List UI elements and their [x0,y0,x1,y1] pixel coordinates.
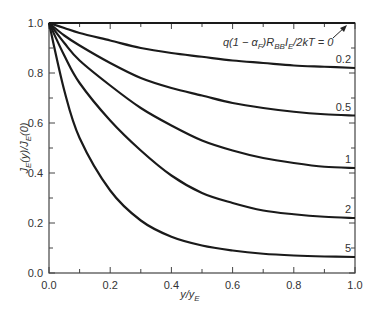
annotation-arrow-icon [333,25,347,38]
curve-label-1: 1 [345,153,351,165]
plot-frame [49,23,355,273]
x-tick-label: 0.4 [164,279,179,291]
y-tick-label: 0.8 [28,67,43,79]
y-tick-label: 0.2 [28,217,43,229]
curve-label-0.5: 0.5 [336,101,351,113]
x-axis-label: y/yE [179,288,200,303]
x-tick-label: 0.6 [225,279,240,291]
curve-label-0.2: 0.2 [336,53,351,65]
parameter-annotation: q(1 − αF)RBBIE/2kT = 0 [223,36,334,51]
y-tick-label: 0.0 [28,267,43,279]
curve-labels: 0.20.5125 [336,53,351,254]
curve-label-2: 2 [345,203,351,215]
x-tick-label: 1.0 [347,279,362,291]
data-curves [49,23,355,257]
y-axis-label: JE(y)/JE(0) [18,122,33,174]
x-tick-label: 0.8 [286,279,301,291]
chart: 0.00.20.40.60.81.00.00.20.40.60.81.0 0.2… [0,0,373,313]
x-tick-label: 0.0 [41,279,56,291]
x-tick-label: 0.2 [103,279,118,291]
curve-2 [49,23,355,218]
curve-label-5: 5 [345,242,351,254]
y-tick-label: 1.0 [28,17,43,29]
